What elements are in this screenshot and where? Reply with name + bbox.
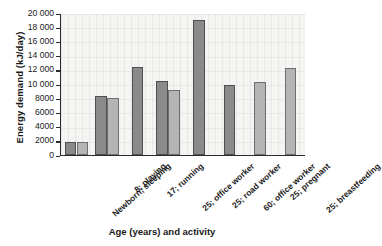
y-tick-label: 18 000 bbox=[28, 22, 54, 32]
x-tick-label: 25; road worker bbox=[230, 161, 283, 210]
x-tick-label: Newborn; sleeping bbox=[111, 161, 173, 219]
y-tick-label: 12 000 bbox=[28, 64, 54, 74]
bar-male bbox=[95, 96, 107, 155]
x-tick-label: 25; breastfeeding bbox=[324, 161, 382, 215]
bar-group bbox=[92, 14, 123, 155]
bar-female bbox=[168, 90, 180, 155]
y-axis-tick-labels: 20 00018 00016 00014 00012 00010 0008000… bbox=[0, 14, 60, 156]
bar-group bbox=[275, 14, 306, 155]
y-tick-label: 2000 bbox=[35, 135, 54, 145]
y-tick-label: 10 000 bbox=[28, 79, 54, 89]
bar-group bbox=[153, 14, 184, 155]
x-tick-label: 25; office worker bbox=[200, 161, 256, 213]
bar-group bbox=[245, 14, 276, 155]
bar-male bbox=[193, 20, 205, 155]
x-axis-title: Age (years) and activity bbox=[0, 226, 324, 237]
bar-female bbox=[107, 98, 119, 155]
bar-group bbox=[122, 14, 153, 155]
x-tick-label: 25; pregnant bbox=[288, 161, 332, 202]
y-tick-label: 4000 bbox=[35, 121, 54, 131]
bar-female bbox=[77, 142, 89, 155]
plot-area bbox=[60, 14, 305, 156]
bar-male bbox=[65, 142, 77, 155]
bar-male bbox=[156, 81, 168, 155]
x-tick-label: 60; office worker bbox=[262, 161, 318, 213]
bar-series-container bbox=[61, 14, 305, 155]
y-tick-label: 0 bbox=[49, 150, 54, 160]
bar-female bbox=[285, 68, 297, 155]
bar-female bbox=[254, 82, 266, 155]
y-tick-label: 14 000 bbox=[28, 50, 54, 60]
bar-male bbox=[132, 67, 144, 155]
x-tick-label: 17; running bbox=[164, 161, 205, 199]
bar-male bbox=[224, 85, 236, 155]
bar-group bbox=[61, 14, 92, 155]
y-tick-label: 16 000 bbox=[28, 36, 54, 46]
y-tick-label: 20 000 bbox=[28, 8, 54, 18]
bar-group bbox=[184, 14, 215, 155]
x-tick-label: 8; playing bbox=[132, 161, 168, 195]
y-tick-label: 8000 bbox=[35, 93, 54, 103]
y-tick-label: 6000 bbox=[35, 107, 54, 117]
bar-group bbox=[214, 14, 245, 155]
